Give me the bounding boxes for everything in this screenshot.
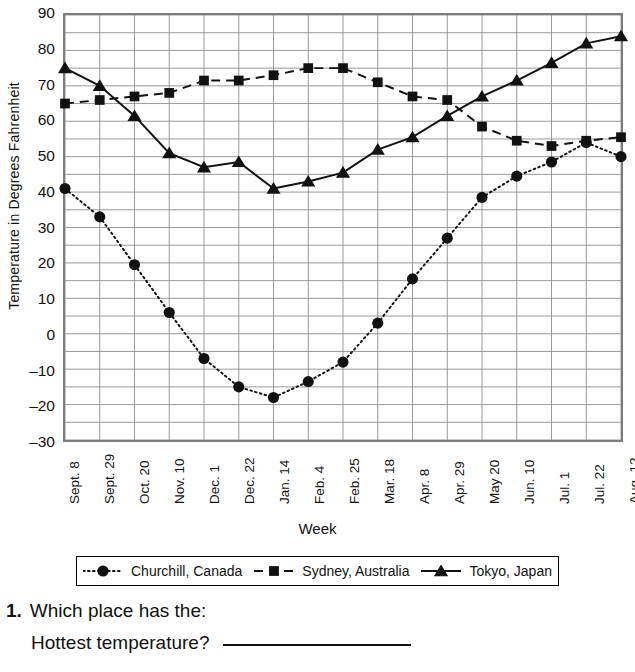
y-tick-label: 10	[13, 291, 55, 307]
legend-key-triangle	[421, 564, 461, 578]
legend-label: Churchill, Canada	[131, 563, 242, 579]
marker-square	[547, 141, 557, 151]
series-sydney-australia	[60, 63, 626, 151]
marker-circle	[303, 376, 314, 387]
y-tick-label: 70	[13, 77, 55, 93]
series-tokyo-japan	[58, 30, 628, 194]
marker-square	[164, 88, 174, 98]
marker-square	[95, 95, 105, 105]
y-tick-label: 50	[13, 148, 55, 164]
marker-circle	[337, 357, 348, 368]
marker-square	[442, 95, 452, 105]
marker-square	[373, 77, 383, 87]
marker-triangle	[544, 56, 558, 68]
marker-square	[616, 132, 626, 142]
legend-label: Tokyo, Japan	[469, 563, 552, 579]
marker-circle	[615, 151, 626, 162]
y-tick-label: 20	[13, 255, 55, 271]
legend-label: Sydney, Australia	[302, 563, 409, 579]
y-tick-label: –10	[13, 363, 55, 379]
worksheet-questions: 1. Which place has the: Hottest temperat…	[6, 600, 635, 664]
marker-square	[234, 76, 244, 86]
marker-square	[269, 566, 279, 576]
marker-triangle	[232, 155, 246, 167]
y-tick-label: 40	[13, 184, 55, 200]
marker-circle	[407, 273, 418, 284]
temperature-line-chart: Temperature in Degrees Fahrenheit 908070…	[0, 0, 635, 540]
marker-square	[303, 63, 313, 73]
marker-circle	[164, 307, 175, 318]
marker-triangle	[440, 109, 454, 121]
series-line	[65, 68, 621, 146]
marker-circle	[94, 211, 105, 222]
marker-square	[60, 99, 70, 109]
question-1-sub-row: Hottest temperature?	[31, 632, 635, 654]
marker-circle	[511, 171, 522, 182]
legend-entry: Tokyo, Japan	[421, 563, 552, 579]
y-tick-label: 90	[13, 5, 55, 21]
marker-triangle	[93, 79, 107, 91]
y-tick-label: 80	[13, 41, 55, 57]
marker-square	[269, 70, 279, 80]
marker-triangle	[405, 131, 419, 143]
marker-circle	[546, 156, 557, 167]
marker-square	[130, 92, 140, 102]
question-number: 1.	[6, 600, 22, 622]
question-prompt: Which place has the:	[30, 600, 206, 622]
x-axis-title: Week	[0, 520, 635, 537]
answer-blank-line[interactable]	[223, 643, 411, 646]
question-sub-prompt: Hottest temperature?	[31, 632, 209, 654]
marker-square	[199, 76, 209, 86]
marker-circle	[198, 353, 209, 364]
marker-triangle	[475, 90, 489, 102]
marker-square	[581, 136, 591, 146]
marker-circle	[476, 192, 487, 203]
y-tick-label: –30	[13, 434, 55, 450]
chart-legend: Churchill, CanadaSydney, AustraliaTokyo,…	[76, 556, 559, 586]
plot-area	[63, 13, 623, 442]
y-tick-label: 30	[13, 220, 55, 236]
marker-square	[408, 92, 418, 102]
marker-circle	[268, 392, 279, 403]
marker-square	[512, 136, 522, 146]
legend-key-circle	[83, 564, 123, 578]
marker-triangle	[510, 74, 524, 86]
legend-entry: Churchill, Canada	[83, 563, 242, 579]
series-line	[65, 36, 621, 188]
y-tick-label: 60	[13, 112, 55, 128]
question-1-row: 1. Which place has the:	[6, 600, 635, 622]
marker-circle	[59, 183, 70, 194]
marker-triangle	[58, 62, 72, 74]
marker-triangle	[336, 166, 350, 178]
legend-entry: Sydney, Australia	[254, 563, 409, 579]
marker-circle	[97, 565, 108, 576]
marker-circle	[442, 233, 453, 244]
marker-triangle	[614, 30, 628, 42]
marker-circle	[233, 381, 244, 392]
data-series-layer	[65, 15, 621, 440]
marker-square	[338, 63, 348, 73]
legend-key-square	[254, 564, 294, 578]
marker-square	[477, 122, 487, 132]
y-tick-label: 0	[13, 327, 55, 343]
marker-circle	[129, 259, 140, 270]
marker-circle	[372, 318, 383, 329]
y-tick-label: –20	[13, 398, 55, 414]
